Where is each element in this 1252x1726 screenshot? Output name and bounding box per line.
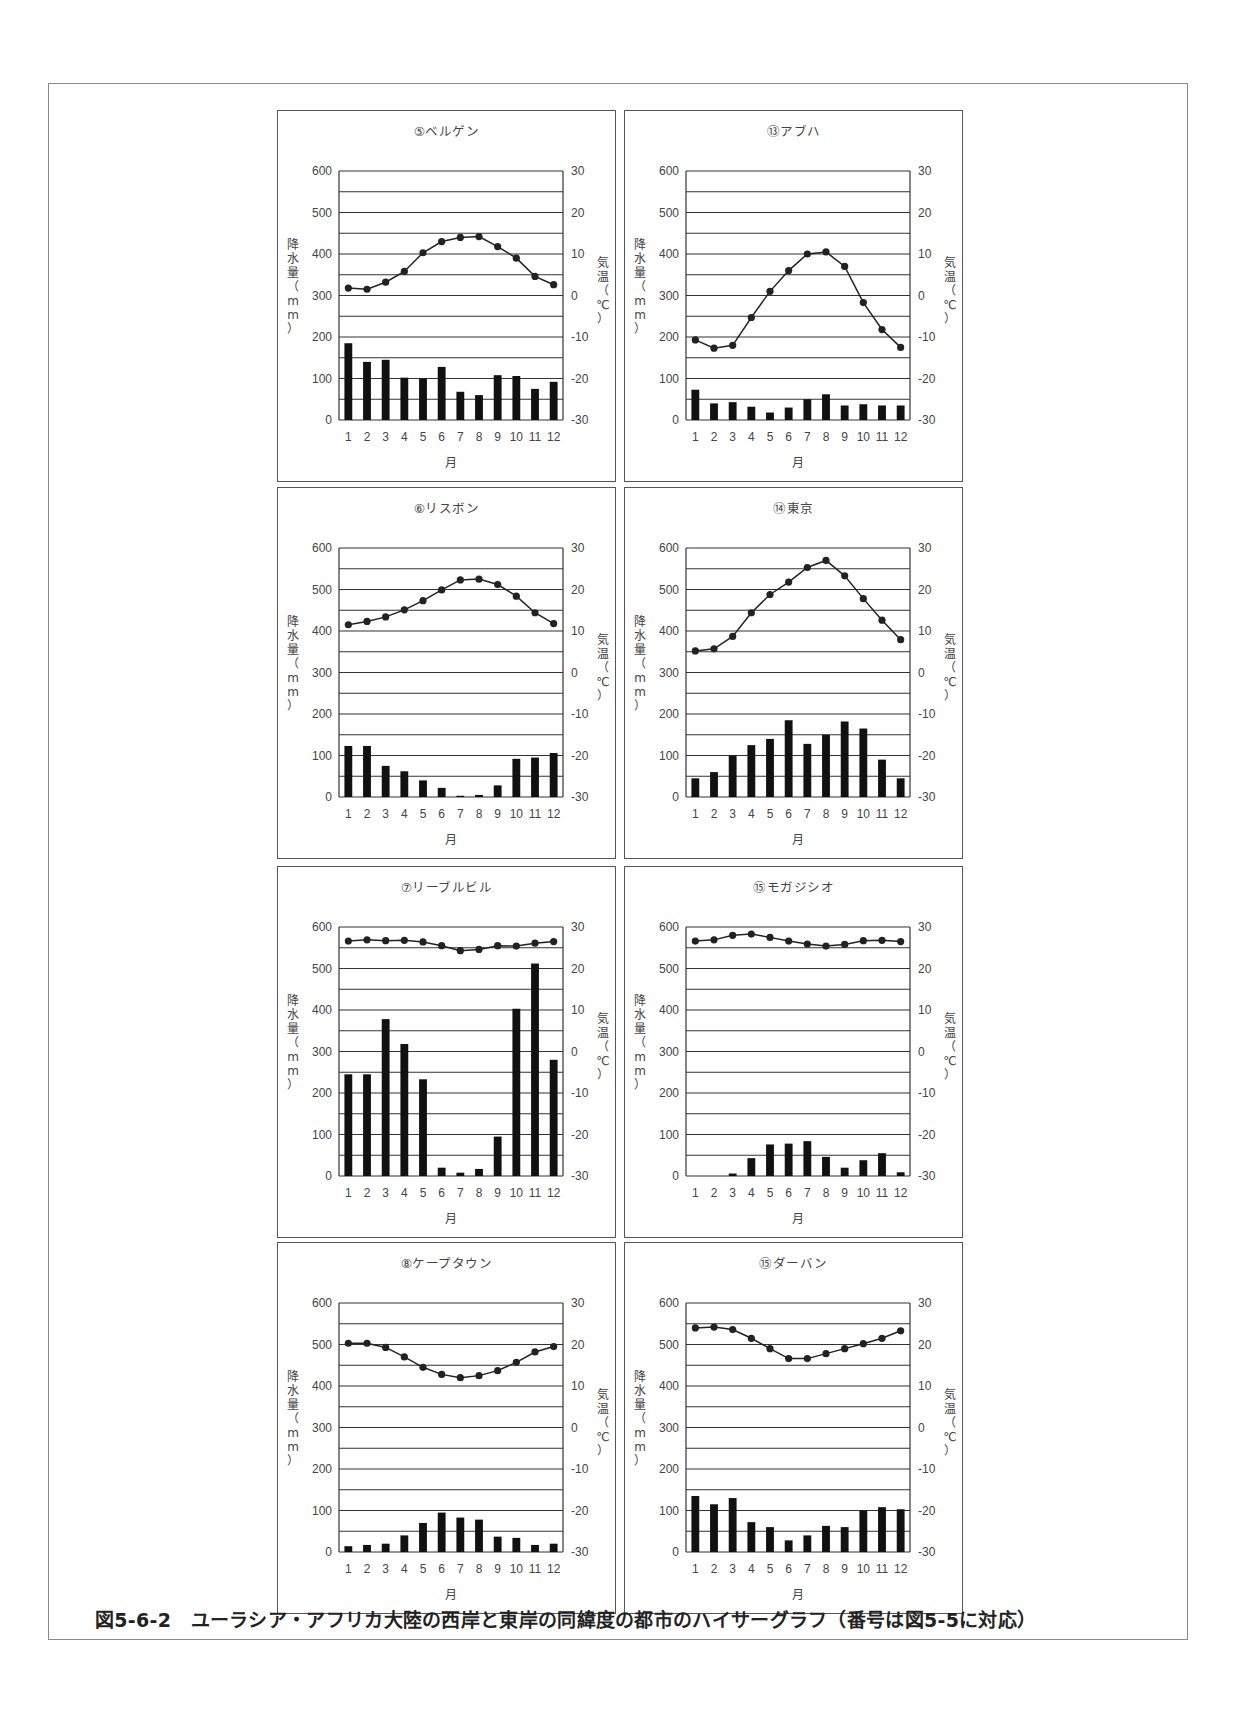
svg-text:6: 6 xyxy=(438,807,445,821)
hythergraph-capetown: 0100200300400500600-30-20-10010203012345… xyxy=(278,1243,617,1615)
svg-text:）: ） xyxy=(597,1444,609,1458)
svg-text:-30: -30 xyxy=(918,1545,936,1559)
svg-text:（: （ xyxy=(287,1036,299,1050)
svg-text:-10: -10 xyxy=(918,1086,936,1100)
svg-text:（: （ xyxy=(597,661,609,675)
hythergraph-bergen: 0100200300400500600-30-20-10010203012345… xyxy=(278,111,617,483)
svg-text:10: 10 xyxy=(571,1379,585,1393)
svg-text:500: 500 xyxy=(312,583,332,597)
svg-text:11: 11 xyxy=(876,1186,889,1200)
svg-text:0: 0 xyxy=(571,289,578,303)
svg-text:400: 400 xyxy=(659,247,679,261)
svg-text:600: 600 xyxy=(659,1296,679,1310)
svg-text:2: 2 xyxy=(711,430,718,444)
svg-text:3: 3 xyxy=(729,1562,736,1576)
svg-text:（: （ xyxy=(634,657,646,671)
temperature-line xyxy=(692,1323,905,1362)
svg-text:5: 5 xyxy=(767,1562,774,1576)
svg-text:6: 6 xyxy=(438,430,445,444)
svg-text:600: 600 xyxy=(659,164,679,178)
svg-text:（: （ xyxy=(944,1040,956,1054)
svg-text:水: 水 xyxy=(287,629,299,643)
svg-text:5: 5 xyxy=(420,1562,427,1576)
chart-panel-bergen: ⑤ベルゲン 0100200300400500600-30-20-10010203… xyxy=(277,110,616,482)
svg-text:水: 水 xyxy=(634,1008,646,1022)
svg-text:m: m xyxy=(634,685,646,699)
svg-text:20: 20 xyxy=(918,583,932,597)
svg-text:（: （ xyxy=(944,661,956,675)
svg-text:10: 10 xyxy=(857,430,871,444)
svg-text:8: 8 xyxy=(823,1186,830,1200)
svg-text:m: m xyxy=(287,1426,299,1440)
svg-text:量: 量 xyxy=(287,643,299,657)
svg-text:℃: ℃ xyxy=(596,1430,609,1444)
svg-text:-30: -30 xyxy=(571,790,589,804)
svg-text:-20: -20 xyxy=(571,1504,589,1518)
right-axis-label: 気温（℃） xyxy=(596,1387,609,1458)
svg-text:4: 4 xyxy=(748,1562,755,1576)
svg-text:12: 12 xyxy=(894,1186,908,1200)
svg-text:℃: ℃ xyxy=(596,298,609,312)
svg-text:m: m xyxy=(634,1064,646,1078)
svg-text:10: 10 xyxy=(918,1379,932,1393)
svg-text:℃: ℃ xyxy=(943,675,956,689)
svg-text:3: 3 xyxy=(382,430,389,444)
svg-text:-10: -10 xyxy=(918,330,936,344)
svg-text:11: 11 xyxy=(529,1186,542,1200)
svg-text:℃: ℃ xyxy=(596,1054,609,1068)
svg-text:℃: ℃ xyxy=(596,675,609,689)
svg-text:-30: -30 xyxy=(571,1169,589,1183)
svg-text:300: 300 xyxy=(312,1421,332,1435)
svg-text:10: 10 xyxy=(510,430,524,444)
svg-text:温: 温 xyxy=(944,270,956,284)
svg-text:-30: -30 xyxy=(571,1545,589,1559)
svg-text:600: 600 xyxy=(659,541,679,555)
svg-text:30: 30 xyxy=(571,920,585,934)
hythergraph-mogadishu: 0100200300400500600-30-20-10010203012345… xyxy=(625,867,964,1239)
svg-text:600: 600 xyxy=(312,920,332,934)
svg-text:温: 温 xyxy=(597,647,609,661)
svg-text:2: 2 xyxy=(364,430,371,444)
svg-text:100: 100 xyxy=(659,1504,679,1518)
svg-text:-20: -20 xyxy=(918,749,936,763)
svg-text:7: 7 xyxy=(457,430,464,444)
svg-text:30: 30 xyxy=(918,1296,932,1310)
svg-text:6: 6 xyxy=(785,1562,792,1576)
svg-text:（: （ xyxy=(634,280,646,294)
svg-text:）: ） xyxy=(944,312,956,326)
svg-text:水: 水 xyxy=(634,629,646,643)
svg-text:0: 0 xyxy=(571,666,578,680)
svg-text:9: 9 xyxy=(494,807,501,821)
svg-text:11: 11 xyxy=(529,430,542,444)
gridlines xyxy=(339,1303,563,1552)
svg-text:）: ） xyxy=(287,322,299,336)
svg-text:-10: -10 xyxy=(918,707,936,721)
gridlines xyxy=(686,171,910,420)
svg-text:）: ） xyxy=(597,689,609,703)
svg-text:5: 5 xyxy=(767,430,774,444)
svg-text:3: 3 xyxy=(729,1186,736,1200)
svg-text:降: 降 xyxy=(634,615,646,629)
svg-text:1: 1 xyxy=(692,430,699,444)
svg-text:9: 9 xyxy=(841,430,848,444)
svg-text:4: 4 xyxy=(748,1186,755,1200)
svg-text:-10: -10 xyxy=(571,330,589,344)
right-axis-label: 気温（℃） xyxy=(943,632,956,703)
svg-text:11: 11 xyxy=(876,430,889,444)
svg-text:500: 500 xyxy=(659,206,679,220)
svg-text:400: 400 xyxy=(312,247,332,261)
svg-text:0: 0 xyxy=(325,1169,332,1183)
x-axis-label: 月 xyxy=(445,456,457,470)
svg-text:温: 温 xyxy=(944,1026,956,1040)
svg-text:5: 5 xyxy=(767,1186,774,1200)
svg-text:30: 30 xyxy=(918,920,932,934)
svg-text:降: 降 xyxy=(287,1370,299,1384)
svg-text:）: ） xyxy=(634,322,646,336)
svg-text:温: 温 xyxy=(597,1402,609,1416)
svg-text:8: 8 xyxy=(823,807,830,821)
svg-text:6: 6 xyxy=(785,807,792,821)
svg-text:10: 10 xyxy=(571,1003,585,1017)
svg-text:）: ） xyxy=(597,312,609,326)
x-axis-label: 月 xyxy=(445,1212,457,1226)
left-axis-label: 降水量（mm） xyxy=(287,994,299,1092)
